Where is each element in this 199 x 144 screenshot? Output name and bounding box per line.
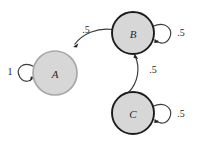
self-loop-a: 1 (8, 64, 35, 81)
state-node-b-label: B (130, 28, 137, 40)
edge-b-to-a: .5 (73, 24, 113, 48)
self-loop-b: .5 (153, 25, 185, 44)
self-loop-c: .5 (153, 105, 185, 124)
edge-c-to-b-path (129, 57, 138, 93)
self-loop-c-arrowhead (154, 119, 159, 123)
edge-c-to-b-label: .5 (149, 64, 157, 75)
state-node-a[interactable]: A (33, 51, 77, 95)
state-node-c-label: C (129, 108, 137, 120)
self-loop-b-arrowhead (154, 39, 159, 43)
edge-c-to-b: .5 (129, 54, 157, 93)
state-node-b[interactable]: B (112, 12, 154, 54)
state-node-c[interactable]: C (112, 92, 154, 134)
edge-b-to-a-label: .5 (82, 24, 90, 35)
self-loop-b-label: .5 (177, 27, 185, 38)
state-node-a-label: A (51, 68, 59, 80)
edge-b-to-a-path (75, 29, 113, 44)
self-loop-a-label: 1 (8, 66, 13, 77)
self-loop-c-label: .5 (177, 108, 185, 119)
state-diagram-canvas: .5 .5 1 .5 .5 A (0, 0, 199, 144)
state-diagram-svg: .5 .5 1 .5 .5 A (0, 0, 199, 144)
